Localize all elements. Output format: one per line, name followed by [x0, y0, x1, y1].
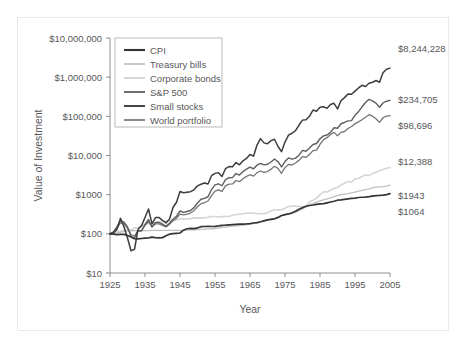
x-axis-title: Year: [239, 303, 261, 315]
end-value-label-small-stocks: $8,244,228: [398, 43, 446, 54]
end-value-label-s-p-500: $234,705: [398, 94, 438, 105]
x-tick-label: 1965: [239, 279, 260, 290]
end-value-label-treasury-bills: $1943: [398, 190, 424, 201]
legend-label-corporate-bonds: Corporate bonds: [150, 73, 221, 84]
y-tick-label: $10: [86, 268, 102, 279]
legend-label-treasury-bills: Treasury bills: [150, 59, 206, 70]
chart-svg: $10$100$1000$10,000$100,000$1,000,000$10…: [0, 0, 470, 350]
end-value-label-corporate-bonds: $12,388: [398, 156, 432, 167]
x-tick-label: 1955: [204, 279, 225, 290]
end-value-label-world-portfolio: $98,696: [398, 120, 432, 131]
x-tick-label: 1995: [344, 279, 365, 290]
legend-label-small-stocks: Small stocks: [150, 101, 204, 112]
y-tick-label: $1,000,000: [54, 72, 102, 83]
y-tick-label: $100: [81, 228, 102, 239]
x-tick-label: 2005: [379, 279, 400, 290]
x-tick-label: 1935: [134, 279, 155, 290]
legend-label-world-portfolio: World portfolio: [150, 115, 211, 126]
y-axis-title: Value of Investment: [32, 109, 44, 201]
investment-growth-chart: $10$100$1000$10,000$100,000$1,000,000$10…: [0, 0, 470, 350]
y-tick-label: $100,000: [62, 111, 102, 122]
x-tick-label: 1975: [274, 279, 295, 290]
y-tick-label: $10,000,000: [49, 33, 102, 44]
legend-label-s-p-500: S&P 500: [150, 87, 187, 98]
end-value-label-cpi: $1064: [398, 206, 424, 217]
x-tick-label: 1945: [169, 279, 190, 290]
y-tick-label: $10,000: [68, 150, 102, 161]
legend-label-cpi: CPI: [150, 45, 166, 56]
y-tick-label: $1000: [76, 189, 102, 200]
x-tick-label: 1985: [309, 279, 330, 290]
series-line-world-portfolio: [110, 115, 390, 236]
series-line-cpi: [110, 194, 390, 239]
x-tick-label: 1925: [99, 279, 120, 290]
